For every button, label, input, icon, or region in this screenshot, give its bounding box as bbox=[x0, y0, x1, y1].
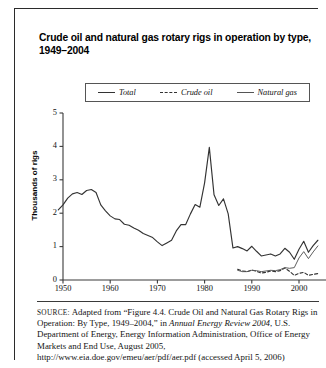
x-axis-tick-1980: 1980 bbox=[189, 284, 221, 293]
legend-label-natural-gas: Natural gas bbox=[258, 88, 297, 97]
legend-label-crude-oil: Crude oil bbox=[181, 88, 213, 97]
legend-item-total: Total bbox=[98, 88, 136, 97]
legend-item-natural-gas: Natural gas bbox=[237, 88, 297, 97]
legend-swatch-total-icon bbox=[98, 92, 115, 93]
x-axis-tick-1970: 1970 bbox=[141, 284, 173, 293]
x-axis-tick-2000: 2000 bbox=[283, 284, 315, 293]
legend-item-crude-oil: Crude oil bbox=[160, 88, 213, 97]
x-axis-tick-1990: 1990 bbox=[236, 284, 268, 293]
y-axis-tick-5: 5 bbox=[41, 108, 57, 117]
source-label: SOURCE: bbox=[37, 308, 70, 317]
y-axis-tick-2: 2 bbox=[41, 208, 57, 217]
y-axis-tick-4: 4 bbox=[41, 141, 57, 150]
source-italic-1: Annual Energy Review 2004 bbox=[169, 318, 270, 328]
y-axis-label: Thousands of rigs bbox=[30, 143, 39, 229]
series-line-natural-gas bbox=[238, 246, 318, 272]
legend-swatch-natural-gas-icon bbox=[237, 92, 254, 93]
source-note: SOURCE: Adapted from “Figure 4.4. Crude … bbox=[37, 307, 323, 363]
chart-legend: Total Crude oil Natural gas bbox=[85, 83, 310, 102]
x-axis-tick-1950: 1950 bbox=[47, 284, 79, 293]
series-line-total bbox=[58, 147, 318, 259]
y-axis-tick-0: 0 bbox=[41, 275, 57, 284]
legend-swatch-crude-oil-icon bbox=[160, 92, 177, 93]
source-divider bbox=[37, 301, 319, 302]
x-axis-tick-1960: 1960 bbox=[94, 284, 126, 293]
figure-title: Crude oil and natural gas rotary rigs in… bbox=[39, 31, 317, 57]
y-axis-tick-3: 3 bbox=[41, 174, 57, 183]
legend-label-total: Total bbox=[119, 88, 136, 97]
source-text-3: .doe.gov/emeu/aer/pdf/aer.pdf (accessed … bbox=[89, 352, 284, 362]
y-axis-tick-1: 1 bbox=[41, 241, 57, 250]
series-line-crude-oil bbox=[238, 268, 318, 275]
figure-container: Crude oil and natural gas rotary rigs in… bbox=[14, 8, 318, 360]
